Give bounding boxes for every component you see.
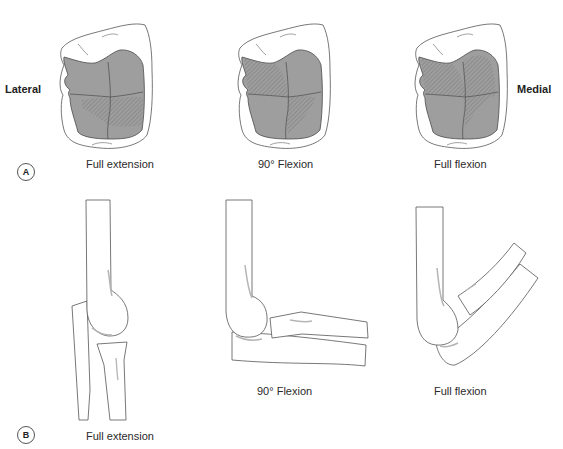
lateral-label: Lateral: [5, 83, 41, 95]
caption-b-full-extension: Full extension: [86, 430, 154, 442]
caption-b-90-flexion: 90° Flexion: [257, 385, 312, 397]
caption-b-full-flexion: Full flexion: [434, 385, 487, 397]
diagram-canvas: [0, 0, 563, 449]
patella-full-extension: [60, 24, 152, 148]
caption-a-90-flexion: 90° Flexion: [258, 158, 313, 170]
medial-label: Medial: [517, 83, 551, 95]
caption-a-full-extension: Full extension: [86, 158, 154, 170]
panel-a-badge: A: [17, 163, 35, 181]
knee-90-flexion: [226, 200, 368, 366]
knee-full-extension: [72, 200, 128, 420]
caption-a-full-flexion: Full flexion: [434, 158, 487, 170]
knee-full-flexion: [416, 207, 538, 365]
patella-90-flexion: [238, 24, 330, 148]
patella-full-flexion: [415, 24, 507, 148]
panel-b-badge: B: [17, 426, 35, 444]
